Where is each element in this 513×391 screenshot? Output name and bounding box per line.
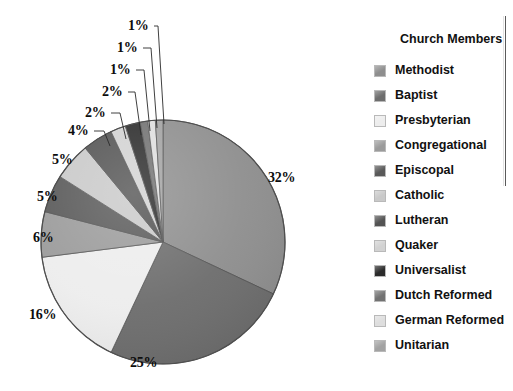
legend-color-swatch xyxy=(374,165,386,177)
legend-item-label: Congregational xyxy=(395,139,487,152)
pie-slice-percent-label: 5% xyxy=(37,189,58,205)
legend-item-label: Unitarian xyxy=(395,339,449,352)
pie-slice-percent-label: 1% xyxy=(128,18,149,34)
legend-item[interactable]: Dutch Reformed xyxy=(374,283,513,308)
pie-slice-percent-label: 4% xyxy=(68,123,89,139)
legend-item-label: Quaker xyxy=(395,239,438,252)
legend-item[interactable]: German Reformed xyxy=(374,308,513,333)
legend-item[interactable]: Lutheran xyxy=(374,208,513,233)
legend-item[interactable]: Presbyterian xyxy=(374,108,513,133)
chart-canvas: 32%25%16%6%5%5%4%2%2%1%1%1% Church Membe… xyxy=(0,0,513,391)
legend-color-swatch xyxy=(374,65,386,77)
legend-item[interactable]: Quaker xyxy=(374,233,513,258)
pie-chart: 32%25%16%6%5%5%4%2%2%1%1%1% xyxy=(0,0,360,391)
pie-slice-percent-label: 32% xyxy=(268,170,295,186)
pie-slice-percent-label: 25% xyxy=(130,355,157,371)
pie-sheen-overlay xyxy=(41,120,285,364)
legend-item-label: German Reformed xyxy=(395,314,504,327)
pie-slice-percent-label: 5% xyxy=(52,152,73,168)
panel-divider-shadow xyxy=(503,16,504,186)
legend-item[interactable]: Catholic xyxy=(374,183,513,208)
legend-color-swatch xyxy=(374,290,386,302)
legend-item-label: Lutheran xyxy=(395,214,448,227)
panel-divider xyxy=(505,16,506,186)
legend-color-swatch xyxy=(374,240,386,252)
legend-color-swatch xyxy=(374,265,386,277)
legend-item-label: Baptist xyxy=(395,89,437,102)
legend-color-swatch xyxy=(374,115,386,127)
legend-color-swatch xyxy=(374,190,386,202)
legend-item[interactable]: Episcopal xyxy=(374,158,513,183)
legend-color-swatch xyxy=(374,340,386,352)
legend-color-swatch xyxy=(374,140,386,152)
legend-item[interactable]: Congregational xyxy=(374,133,513,158)
pie-slice-percent-label: 1% xyxy=(110,62,131,78)
legend-title: Church Members xyxy=(400,32,513,46)
legend-color-swatch xyxy=(374,315,386,327)
legend-color-swatch xyxy=(374,90,386,102)
legend-item-label: Presbyterian xyxy=(395,114,471,127)
legend: Church Members MethodistBaptistPresbyter… xyxy=(374,32,513,358)
legend-color-swatch xyxy=(374,215,386,227)
pie-slice-percent-label: 2% xyxy=(85,105,106,121)
legend-item-label: Dutch Reformed xyxy=(395,289,492,302)
legend-item-label: Methodist xyxy=(395,64,454,77)
legend-item-label: Episcopal xyxy=(395,164,454,177)
legend-item-label: Universalist xyxy=(395,264,466,277)
legend-item-label: Catholic xyxy=(395,189,444,202)
legend-item[interactable]: Methodist xyxy=(374,58,513,83)
pie-slice-percent-label: 16% xyxy=(29,307,56,323)
pie-slice-percent-label: 2% xyxy=(102,84,123,100)
legend-item[interactable]: Baptist xyxy=(374,83,513,108)
legend-items: MethodistBaptistPresbyterianCongregation… xyxy=(374,58,513,358)
pie-slice-percent-label: 6% xyxy=(33,230,54,246)
pie-slice-percent-label: 1% xyxy=(117,40,138,56)
label-leader-line xyxy=(143,48,157,128)
legend-item[interactable]: Universalist xyxy=(374,258,513,283)
legend-item[interactable]: Unitarian xyxy=(374,333,513,358)
